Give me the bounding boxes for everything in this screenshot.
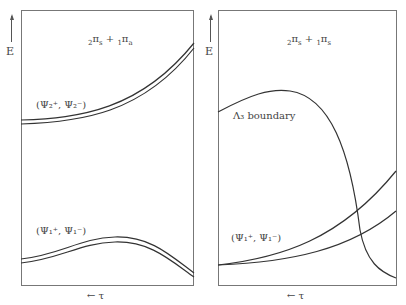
right-lambda3-boundary-curve xyxy=(218,90,396,278)
left-psi1-curve-b xyxy=(21,242,194,277)
left-psi2-curve-a xyxy=(21,43,194,120)
left-psi2-curve-b xyxy=(21,48,194,124)
left-arrowhead-icon xyxy=(10,14,14,20)
right-psi1-plus-curve xyxy=(218,171,396,265)
right-arrowhead-icon xyxy=(209,14,213,20)
curves-layer xyxy=(0,0,406,305)
